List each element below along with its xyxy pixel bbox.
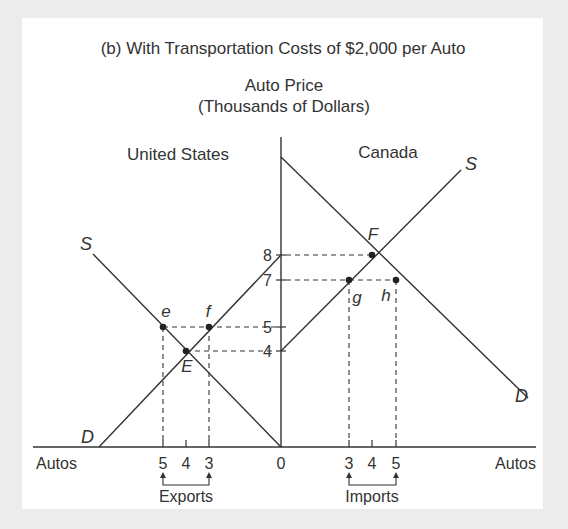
point-label-h: h <box>381 286 390 305</box>
chart-title: (b) With Transportation Costs of $2,000 … <box>101 39 466 58</box>
y-tick-8: 8 <box>263 247 272 264</box>
x-tick-us-4: 4 <box>182 455 191 472</box>
us-demand-label: D <box>81 427 94 447</box>
x-tick-ca-4: 4 <box>368 455 377 472</box>
guide-lines <box>163 255 396 440</box>
y-axis-label-line2: (Thousands of Dollars) <box>198 97 370 116</box>
canada-supply-label: S <box>465 154 477 174</box>
imports-label: Imports <box>345 488 398 505</box>
panel-label-canada: Canada <box>358 143 418 162</box>
canada-demand-label: D <box>515 386 528 406</box>
point-label-E: E <box>181 357 193 376</box>
point-label-e: e <box>161 302 170 321</box>
x-axis-label-right: Autos <box>495 455 536 472</box>
x-tick-us-5: 5 <box>159 455 168 472</box>
x-axis-label-left: Autos <box>36 455 77 472</box>
trade-chart: (b) With Transportation Costs of $2,000 … <box>0 0 568 529</box>
x-tick-ca-3: 3 <box>345 455 354 472</box>
point-label-f: f <box>206 302 213 321</box>
exports-arrows <box>160 472 212 478</box>
y-axis-label-line1: Auto Price <box>245 76 323 95</box>
point-label-F: F <box>368 225 380 244</box>
exports-label: Exports <box>159 488 213 505</box>
x-tick-us-3: 3 <box>205 455 214 472</box>
exports-bracket <box>163 476 209 485</box>
equilibrium-points <box>160 252 400 355</box>
x-tick-zero: 0 <box>277 455 286 472</box>
us-supply-label: S <box>80 234 92 254</box>
canada-supply-curve <box>281 170 461 351</box>
canada-demand-curve <box>281 157 528 398</box>
imports-arrows <box>346 472 399 478</box>
point-label-g: g <box>352 288 362 307</box>
panel-label-united-states: United States <box>127 145 229 164</box>
x-tick-ca-5: 5 <box>392 455 401 472</box>
y-tick-7: 7 <box>263 272 272 289</box>
imports-bracket <box>349 476 396 485</box>
